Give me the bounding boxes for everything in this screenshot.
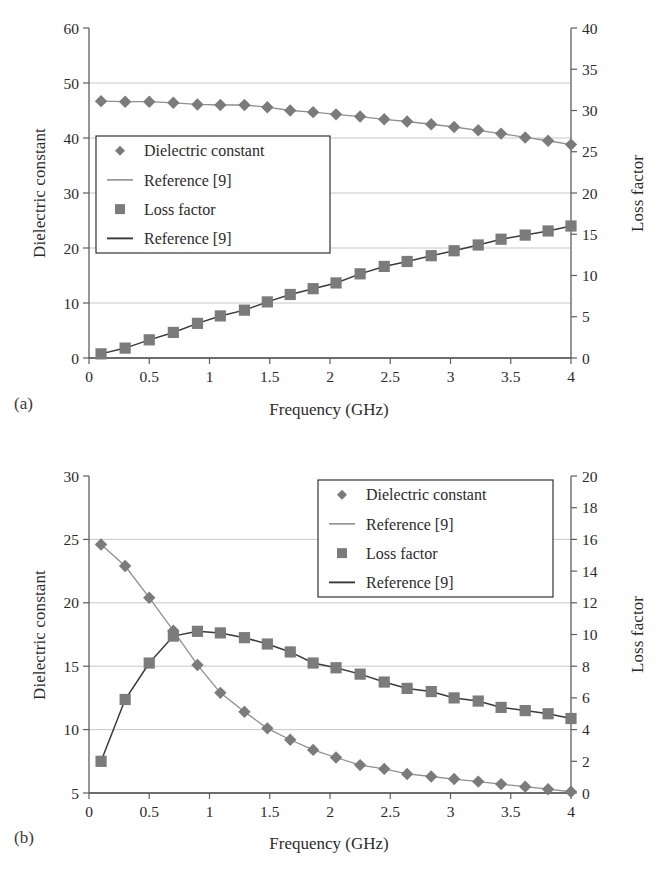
x-tick-label: 0.5 — [140, 803, 160, 820]
data-point-square — [496, 234, 507, 245]
data-point-diamond — [354, 759, 366, 771]
data-point-square — [215, 627, 226, 638]
data-point-diamond — [330, 751, 342, 763]
y2-tick-label: 20 — [582, 185, 598, 202]
data-point-diamond — [425, 770, 437, 782]
data-point-diamond — [261, 722, 273, 734]
data-point-diamond — [519, 131, 531, 143]
data-point-diamond — [284, 734, 296, 746]
legend-label: Reference [9] — [144, 172, 232, 189]
data-point-square — [473, 239, 484, 250]
chart-a-x-axis-title: Frequency (GHz) — [0, 400, 658, 420]
data-point-square — [355, 268, 366, 279]
y-tick-label: 15 — [64, 658, 80, 675]
chart-b-canvas: 510152025300246810121416182000.511.522.5… — [0, 436, 658, 870]
data-point-square — [330, 277, 341, 288]
data-point-square — [120, 343, 131, 354]
data-point-square — [426, 250, 437, 261]
y2-tick-label: 16 — [582, 531, 598, 548]
y2-tick-label: 5 — [582, 308, 590, 325]
y2-tick-label: 6 — [582, 689, 590, 706]
x-tick-label: 0 — [85, 368, 93, 385]
data-point-square — [239, 305, 250, 316]
x-tick-label: 3.5 — [501, 368, 521, 385]
x-tick-label: 2.5 — [381, 803, 401, 820]
data-point-square — [520, 229, 531, 240]
data-point-diamond — [378, 113, 390, 125]
data-point-square — [285, 289, 296, 300]
x-tick-label: 2 — [326, 368, 334, 385]
data-point-diamond — [472, 775, 484, 787]
data-point-diamond — [95, 95, 107, 107]
panel-a-label: (a) — [14, 394, 33, 414]
data-point-square — [379, 261, 390, 272]
x-tick-label: 1.5 — [260, 368, 280, 385]
legend-label: Loss factor — [366, 545, 438, 562]
data-point-diamond — [238, 706, 250, 718]
panel-b-label: (b) — [14, 828, 34, 848]
x-tick-label: 0 — [85, 803, 93, 820]
chart-b-y-axis-title: Dielectric constant — [30, 570, 50, 700]
data-point-square — [330, 662, 341, 673]
data-point-square — [565, 220, 576, 231]
data-point-square — [402, 256, 413, 267]
y-tick-label: 5 — [71, 785, 79, 802]
y-tick-label: 20 — [64, 240, 80, 257]
chart-a-y-axis-title: Dielectric constant — [30, 128, 50, 258]
data-point-diamond — [238, 99, 250, 111]
data-point-square — [120, 694, 131, 705]
y2-tick-label: 25 — [582, 143, 598, 160]
data-point-diamond — [330, 108, 342, 120]
legend-label: Dielectric constant — [366, 486, 487, 503]
data-point-square — [144, 334, 155, 345]
y2-tick-label: 4 — [582, 721, 590, 738]
data-point-square — [192, 626, 203, 637]
data-point-square — [449, 692, 460, 703]
data-point-diamond — [143, 592, 155, 604]
data-point-square — [285, 646, 296, 657]
legend-label: Reference [9] — [144, 230, 232, 247]
y2-tick-label: 15 — [582, 226, 598, 243]
data-point-diamond — [565, 786, 577, 798]
data-point-diamond — [191, 98, 203, 110]
y-tick-label: 0 — [71, 350, 79, 367]
data-point-diamond — [307, 744, 319, 756]
data-point-square — [543, 708, 554, 719]
y-tick-label: 30 — [64, 185, 80, 202]
data-point-diamond — [495, 778, 507, 790]
x-tick-label: 2 — [326, 803, 334, 820]
y2-tick-label: 0 — [582, 350, 590, 367]
y-tick-label: 50 — [64, 75, 80, 92]
data-point-square — [379, 676, 390, 687]
chart-panel-a: 0102030405060051015202530354000.511.522.… — [0, 0, 658, 436]
series-markers-loss-factor — [95, 626, 576, 767]
data-point-diamond — [401, 768, 413, 780]
series-line-loss-factor — [101, 631, 571, 761]
chart-legend: Dielectric constantReference [9]Loss fac… — [96, 136, 330, 253]
data-point-square — [192, 318, 203, 329]
legend-label: Loss factor — [144, 201, 216, 218]
y2-tick-label: 14 — [582, 563, 598, 580]
y-tick-label: 25 — [64, 531, 80, 548]
x-tick-label: 3 — [447, 368, 455, 385]
data-point-diamond — [472, 124, 484, 136]
chart-legend: Dielectric constantReference [9]Loss fac… — [318, 480, 553, 597]
data-point-square — [95, 348, 106, 359]
data-point-square — [95, 756, 106, 767]
data-point-square — [239, 632, 250, 643]
x-tick-label: 2.5 — [381, 368, 401, 385]
chart-panel-b: 510152025300246810121416182000.511.522.5… — [0, 436, 658, 870]
data-point-diamond — [214, 99, 226, 111]
x-tick-label: 3.5 — [501, 803, 521, 820]
data-point-square — [402, 683, 413, 694]
data-point-square — [262, 638, 273, 649]
data-point-square — [215, 310, 226, 321]
y2-tick-label: 35 — [582, 61, 598, 78]
y-tick-label: 10 — [64, 721, 80, 738]
y2-tick-label: 0 — [582, 785, 590, 802]
legend-label: Reference [9] — [366, 516, 454, 533]
data-point-square — [449, 245, 460, 256]
data-point-diamond — [307, 106, 319, 118]
data-point-diamond — [261, 101, 273, 113]
y2-tick-label: 40 — [582, 20, 598, 37]
